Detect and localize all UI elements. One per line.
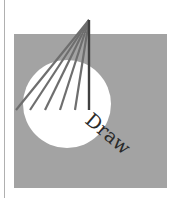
draw-icon-illustration: Draw <box>0 0 177 198</box>
